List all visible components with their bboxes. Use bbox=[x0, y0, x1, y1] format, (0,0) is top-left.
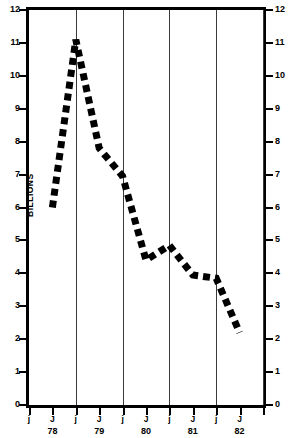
y-axis-label-left-10: 10 bbox=[2, 71, 20, 80]
y-tick-left-2 bbox=[19, 338, 26, 340]
x-axis-year-label-79: 79 bbox=[89, 427, 109, 436]
y-axis-label-right-4: 4 bbox=[275, 268, 293, 277]
y-tick-right-1 bbox=[266, 371, 273, 373]
y-axis-label-left-7: 7 bbox=[2, 170, 20, 179]
y-tick-right-5 bbox=[266, 239, 273, 241]
x-axis-month-label-8: j bbox=[209, 415, 223, 424]
y-tick-left-5 bbox=[19, 239, 26, 241]
y-axis-label-left-8: 8 bbox=[2, 137, 20, 146]
y-axis-label-right-12: 12 bbox=[275, 5, 293, 14]
y-axis-label-right-7: 7 bbox=[275, 170, 293, 179]
y-axis-label-left-2: 2 bbox=[2, 334, 20, 343]
x-axis-year-label-78: 78 bbox=[42, 427, 62, 436]
y-tick-right-0 bbox=[266, 404, 273, 406]
y-axis-label-right-9: 9 bbox=[275, 104, 293, 113]
y-tick-left-10 bbox=[19, 75, 26, 77]
y-axis-label-right-3: 3 bbox=[275, 301, 293, 310]
gridline-4 bbox=[263, 10, 264, 405]
y-axis-label-right-8: 8 bbox=[275, 137, 293, 146]
y-axis-label-left-0: 0 bbox=[2, 400, 20, 409]
y-tick-right-6 bbox=[266, 207, 273, 209]
x-axis-year-label-80: 80 bbox=[136, 427, 156, 436]
y-tick-left-3 bbox=[19, 305, 26, 307]
x-axis-month-label-2: j bbox=[69, 415, 83, 424]
y-tick-right-8 bbox=[266, 141, 273, 143]
y-axis-label-left-11: 11 bbox=[2, 38, 20, 47]
y-axis-label-right-10: 10 bbox=[275, 71, 293, 80]
plot-area: BILLIONS BILLIONS bbox=[29, 10, 263, 405]
y-tick-right-10 bbox=[266, 75, 273, 77]
y-axis-label-right-11: 11 bbox=[275, 38, 293, 47]
y-axis-label-left-4: 4 bbox=[2, 268, 20, 277]
y-tick-right-7 bbox=[266, 174, 273, 176]
y-axis-label-right-6: 6 bbox=[275, 203, 293, 212]
y-axis-label-left-12: 12 bbox=[2, 5, 20, 14]
y-tick-left-0 bbox=[19, 404, 26, 406]
y-axis-label-left-3: 3 bbox=[2, 301, 20, 310]
x-axis-month-label-9: J bbox=[233, 415, 247, 424]
x-tick-end bbox=[263, 408, 265, 415]
y-axis-label-right-0: 0 bbox=[275, 400, 293, 409]
y-tick-left-1 bbox=[19, 371, 26, 373]
x-axis-month-label-5: J bbox=[139, 415, 153, 424]
y-tick-right-2 bbox=[266, 338, 273, 340]
x-axis-year-label-81: 81 bbox=[183, 427, 203, 436]
y-axis-label-right-1: 1 bbox=[275, 367, 293, 376]
x-axis-month-label-4: j bbox=[116, 415, 130, 424]
x-axis-month-label-1: J bbox=[45, 415, 59, 424]
y-axis-label-right-2: 2 bbox=[275, 334, 293, 343]
y-axis-label-left-9: 9 bbox=[2, 104, 20, 113]
x-axis-month-label-0: j bbox=[22, 415, 36, 424]
y-tick-left-9 bbox=[19, 108, 26, 110]
x-axis-month-label-7: J bbox=[186, 415, 200, 424]
y-axis-label-left-6: 6 bbox=[2, 203, 20, 212]
y-tick-right-11 bbox=[266, 42, 273, 44]
y-axis-label-left-5: 5 bbox=[2, 235, 20, 244]
y-tick-left-4 bbox=[19, 272, 26, 274]
y-axis-label-left-1: 1 bbox=[2, 367, 20, 376]
y-tick-left-8 bbox=[19, 141, 26, 143]
y-tick-right-3 bbox=[266, 305, 273, 307]
y-tick-left-12 bbox=[19, 9, 26, 11]
y-tick-right-9 bbox=[266, 108, 273, 110]
x-axis-year-label-82: 82 bbox=[230, 427, 250, 436]
x-axis-month-label-6: j bbox=[162, 415, 176, 424]
y-axis-label-right-5: 5 bbox=[275, 235, 293, 244]
chart-container: BILLIONS BILLIONS 0123456789101112 01234… bbox=[0, 0, 303, 438]
y-tick-left-11 bbox=[19, 42, 26, 44]
y-axis-title-left: BILLIONS bbox=[25, 173, 35, 217]
x-axis-month-label-3: J bbox=[92, 415, 106, 424]
y-tick-right-4 bbox=[266, 272, 273, 274]
data-series-line bbox=[29, 10, 263, 405]
y-tick-right-12 bbox=[266, 9, 273, 11]
